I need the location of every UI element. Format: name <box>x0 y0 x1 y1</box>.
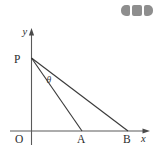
watermark-block-left <box>121 5 130 16</box>
point-label-a: A <box>77 133 86 145</box>
y-axis-label: y <box>22 26 28 37</box>
y-axis-arrowhead <box>29 28 34 36</box>
angle-label-theta: θ <box>47 75 52 85</box>
segment-pa <box>32 58 83 131</box>
watermark-block-right <box>144 5 153 16</box>
diagram-canvas: y x O P A B θ <box>0 0 158 159</box>
point-label-p: P <box>14 53 20 65</box>
x-axis-label: x <box>140 133 146 144</box>
watermark-block-middle <box>132 5 142 16</box>
watermark-mark <box>121 5 153 16</box>
origin-label: O <box>15 133 23 145</box>
segment-pb <box>32 58 129 131</box>
point-label-b: B <box>123 133 131 145</box>
geometry-figure: y x O P A B θ <box>0 0 158 159</box>
